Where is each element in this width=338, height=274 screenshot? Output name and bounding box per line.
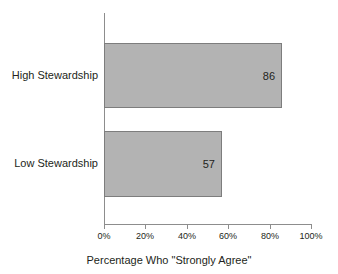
- x-axis-tick-mark: [187, 225, 188, 229]
- bar-value-label: 57: [203, 159, 215, 170]
- x-axis-tick-mark: [104, 225, 105, 229]
- bar-value-label: 86: [263, 70, 275, 81]
- category-label-high-stewardship: High Stewardship: [2, 69, 98, 82]
- x-axis-tick-label: 60%: [219, 231, 237, 242]
- bar-chart: 86 57 High Stewardship Low Stewardship 0…: [0, 0, 338, 274]
- x-axis-tick-mark: [228, 225, 229, 229]
- x-axis-tick-label: 80%: [261, 231, 279, 242]
- x-axis-tick-mark: [145, 225, 146, 229]
- x-axis-tick-label: 0%: [97, 231, 110, 242]
- bar-high-stewardship: 86: [104, 43, 282, 108]
- x-axis-tick-mark: [311, 225, 312, 229]
- x-axis-line: [104, 224, 312, 225]
- category-label-low-stewardship: Low Stewardship: [2, 157, 98, 170]
- x-axis-tick-mark: [270, 225, 271, 229]
- x-axis-title: Percentage Who "Strongly Agree": [0, 254, 338, 267]
- x-axis-tick-label: 40%: [178, 231, 196, 242]
- x-axis-tick-label: 100%: [299, 231, 322, 242]
- x-axis-tick-label: 20%: [136, 231, 154, 242]
- bar-low-stewardship: 57: [104, 131, 222, 197]
